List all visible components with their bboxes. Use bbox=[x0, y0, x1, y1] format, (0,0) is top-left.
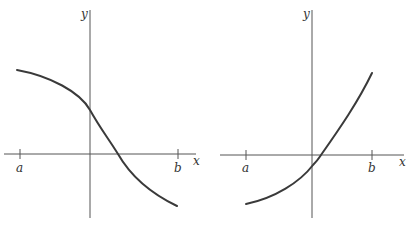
right-graph: a b x y bbox=[220, 7, 406, 218]
left-label-a: a bbox=[16, 161, 23, 175]
left-curve bbox=[17, 70, 177, 206]
left-label-y: y bbox=[80, 7, 88, 21]
right-label-y: y bbox=[302, 7, 310, 21]
left-graph: a b x y bbox=[4, 7, 200, 218]
right-curve bbox=[246, 73, 372, 204]
right-label-b: b bbox=[368, 161, 376, 175]
left-label-x: x bbox=[193, 154, 200, 168]
left-label-b: b bbox=[174, 161, 182, 175]
right-label-a: a bbox=[242, 161, 249, 175]
figure-canvas: a b x y a b x y bbox=[0, 0, 409, 228]
right-label-x: x bbox=[399, 155, 406, 169]
